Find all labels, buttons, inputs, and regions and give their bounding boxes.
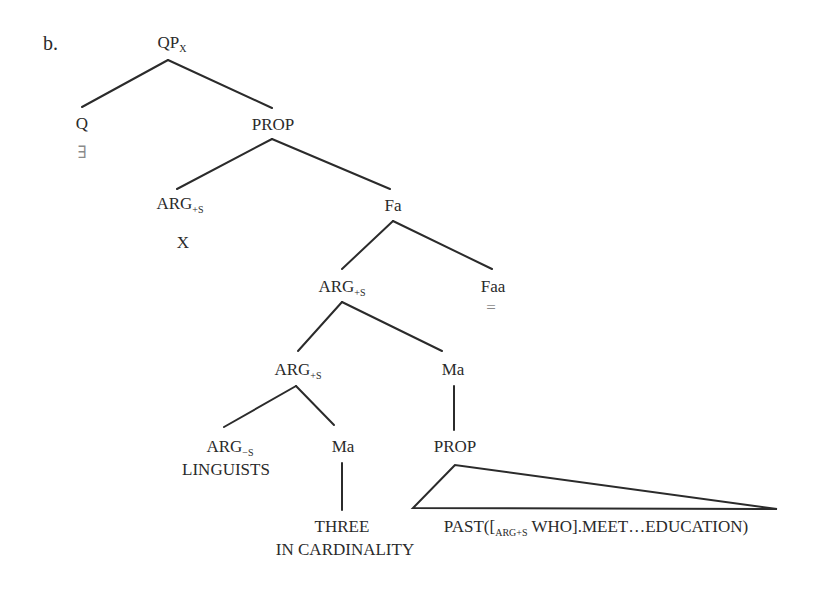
past-prefix: PAST([ [444,517,495,536]
node-arg-label: ARG [274,360,310,379]
node-ma-2: Ma [332,437,355,457]
node-arg-label: ARG [156,194,192,213]
node-arg-subscript: +S [354,287,365,298]
node-arg-minus-s: ARG−S [206,437,253,457]
cardinality-value: IN CARDINALITY [276,540,414,560]
linguists-value: LINGUISTS [182,460,270,480]
node-arg-label: ARG [206,437,242,456]
past-subscript: ARG+S [495,527,527,538]
node-ma-1: Ma [442,360,465,380]
node-arg-subscript: +S [310,370,321,381]
node-arg-plus-s-3: ARG+S [274,360,321,380]
edge-arg-argminus [224,386,296,427]
three-value: THREE [315,517,370,537]
tree-edges [0,0,817,592]
node-faa: Faa [481,277,506,297]
past-proposition-value: PAST([ARG+S WHO].MEET…EDUCATION) [444,517,748,537]
edge-fa-faa [393,221,492,269]
node-arg-subscript: −S [242,447,253,458]
edge-qp-prop [168,60,272,108]
edge-arg-ma2 [296,386,334,425]
prop-triangle [413,465,777,509]
figure-label: b. [43,32,58,54]
node-q: Q [76,114,88,134]
node-qp: QPX [158,33,187,53]
exists-symbol: ∃ [77,143,86,163]
node-fa: Fa [385,196,402,216]
node-qp-subscript: X [179,43,186,54]
node-arg-label: ARG [318,277,354,296]
node-x-value: X [177,233,189,253]
node-qp-label: QP [158,33,180,52]
node-prop-top: PROP [252,115,295,135]
edge-fa-arg [342,221,393,269]
node-arg-plus-s-2: ARG+S [318,277,365,297]
past-suffix: WHO].MEET…EDUCATION) [528,517,749,536]
node-arg-plus-s-1: ARG+S [156,194,203,214]
edge-prop-arg [177,139,272,189]
edge-arg-arg [298,302,342,351]
edge-qp-q [82,60,168,107]
edge-prop-fa [272,139,390,189]
edge-arg-ma [342,302,442,351]
node-arg-subscript: +S [192,204,203,215]
node-prop-bottom: PROP [434,437,477,457]
equals-value: = [486,298,496,318]
